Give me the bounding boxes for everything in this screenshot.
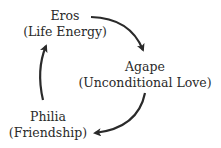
arrow-philia-to-eros bbox=[40, 46, 46, 100]
node-philia: Philia (Friendship) bbox=[3, 109, 93, 141]
node-eros: Eros (Life Energy) bbox=[22, 8, 108, 40]
node-agape-subtitle: (Unconditional Love) bbox=[76, 75, 214, 91]
node-eros-subtitle: (Life Energy) bbox=[22, 24, 108, 40]
node-eros-title: Eros bbox=[22, 8, 108, 24]
node-philia-title: Philia bbox=[3, 109, 93, 125]
node-agape: Agape (Unconditional Love) bbox=[76, 59, 214, 91]
node-agape-title: Agape bbox=[76, 59, 214, 75]
arrow-agape-to-philia bbox=[95, 93, 145, 133]
node-philia-subtitle: (Friendship) bbox=[3, 125, 93, 141]
